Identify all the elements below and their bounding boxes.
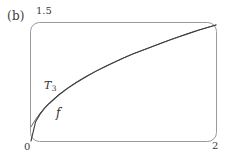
curve-annotation-T3-subscript: 3 bbox=[51, 84, 56, 93]
curve-annotation-T3: T3 bbox=[44, 80, 57, 93]
curve-annotation-f: f bbox=[56, 107, 60, 119]
plot-frame bbox=[31, 23, 217, 142]
figure-panel-b: (b) 1.5 0 2 T3 f bbox=[0, 0, 231, 162]
curve-f bbox=[31, 25, 216, 141]
plot-area bbox=[0, 0, 231, 162]
